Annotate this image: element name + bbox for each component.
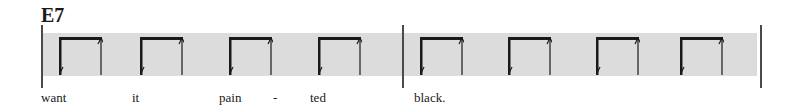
strum-down-up-icon [596,37,640,75]
lyric-word: pain [219,90,241,106]
lyric-word: want [41,90,66,106]
lyric-word: ted [310,90,326,106]
barline-middle [402,25,404,88]
strum-down-up-icon [680,37,724,75]
strum-down-up-icon [59,37,103,75]
barline-end [760,25,762,88]
strum-down-up-icon [508,37,552,75]
chord-symbol: E7 [41,4,64,26]
barline-start [41,25,43,88]
strum-down-up-icon [318,37,362,75]
lyric-word: black. [414,90,445,106]
lyric-hyphen: - [273,90,277,106]
strum-down-up-icon [140,37,184,75]
strum-down-up-icon [420,37,464,75]
strum-down-up-icon [229,37,273,75]
lyric-word: it [132,90,139,106]
